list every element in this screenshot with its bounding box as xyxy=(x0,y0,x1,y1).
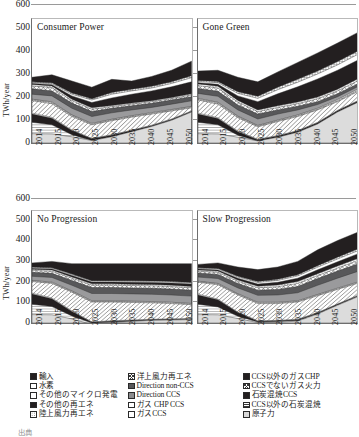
legend-item[interactable]: 洋上風力再エネ xyxy=(128,372,194,381)
x-axis-tick: 2030 xyxy=(110,129,119,145)
x-axis-tick: 2050 xyxy=(350,129,359,145)
legend-swatch-icon xyxy=(30,411,37,418)
y-axis-tick: 300 xyxy=(0,69,30,78)
legend-label: 陸上風力再エネ xyxy=(39,410,94,418)
legend-swatch-icon xyxy=(30,402,37,409)
x-axis-tick: 2015 xyxy=(54,309,63,325)
legend-label: ガス CHP CCS xyxy=(137,401,185,409)
x-axis-tick: 2030 xyxy=(275,129,284,145)
chart-panel-slow-progression[interactable] xyxy=(197,210,359,324)
x-axis-tick: 2015 xyxy=(219,129,228,145)
legend-column: CCS以外のガスCHPCCSでないガス火力石炭混焼CCSCCS以外の石炭混焼原子… xyxy=(243,372,321,419)
x-axis-tick: 2040 xyxy=(313,129,322,145)
chart-block-bottom: TWh/year 6005004003002001000 xyxy=(0,196,359,372)
x-axis-tick: 2020 xyxy=(238,129,247,145)
legend-swatch-icon xyxy=(128,402,135,409)
x-axis-tick: 2030 xyxy=(275,309,284,325)
legend-item[interactable]: 陸上風力再エネ xyxy=(30,410,118,419)
y-axis-tick: 0 xyxy=(0,318,30,327)
chart-panel-consumer-power[interactable] xyxy=(31,18,193,144)
legend-item[interactable]: Direction CCS xyxy=(128,391,194,400)
x-axis-tick: 2014 xyxy=(35,309,44,325)
y-axis-tick: 200 xyxy=(0,277,30,286)
x-axis-tick: 2040 xyxy=(147,129,156,145)
y-axis-tick: 300 xyxy=(0,256,30,265)
legend-item[interactable]: 石炭混焼CCS xyxy=(243,391,321,400)
legend-swatch-icon xyxy=(128,411,135,418)
x-axis-tick: 2020 xyxy=(238,309,247,325)
y-axis-tick: 100 xyxy=(0,115,30,124)
legend-swatch-icon xyxy=(243,411,250,418)
x-axis-tick: 2025 xyxy=(257,309,266,325)
legend-item[interactable]: ガスCCS xyxy=(128,410,194,419)
legend-swatch-icon xyxy=(128,383,135,390)
legend-label: CCSでないガス火力 xyxy=(252,382,321,390)
legend-item[interactable]: 輸入 xyxy=(30,372,118,381)
gridline xyxy=(31,198,356,199)
x-axis-tick: 2014 xyxy=(201,309,210,325)
legend-swatch-icon xyxy=(30,392,37,399)
x-axis-tick: 2035 xyxy=(128,129,137,145)
legend-label: Direction CCS xyxy=(137,391,181,399)
x-axis-tick: 2040 xyxy=(313,309,322,325)
legend-swatch-icon xyxy=(243,383,250,390)
figure-caption: 出典 xyxy=(18,426,32,437)
x-axis-tick: 2035 xyxy=(294,309,303,325)
x-axis-tick: 2025 xyxy=(91,309,100,325)
y-axis-tick: 500 xyxy=(0,23,30,32)
chart-panel-gone-green[interactable] xyxy=(197,18,359,144)
y-axis-tick: 200 xyxy=(0,92,30,101)
y-axis-tick: 100 xyxy=(0,297,30,306)
x-axis-tick: 2035 xyxy=(128,309,137,325)
chart-block-top: TWh/year 6005004003002001000 xyxy=(0,0,359,196)
x-axis-tick: 2025 xyxy=(91,129,100,145)
legend-label: ガスCCS xyxy=(137,410,167,418)
panel-title-no-progression: No Progression xyxy=(37,214,97,224)
y-axis-tick: 600 xyxy=(0,0,30,9)
y-axis-tick: 600 xyxy=(0,194,30,203)
chart-panel-no-progression[interactable] xyxy=(31,210,193,324)
legend-item[interactable]: 原子力 xyxy=(243,410,321,419)
x-axis-tick: 2014 xyxy=(201,129,210,145)
legend-label: Direction non-CCS xyxy=(137,382,194,390)
legend-item[interactable]: CCS以外のガスCHP xyxy=(243,372,321,381)
x-axis-tick: 2030 xyxy=(110,309,119,325)
y-axis-tick: 500 xyxy=(0,215,30,224)
legend-label: その他の再エネ xyxy=(39,401,94,409)
legend-label: その他のマイクロ発電 xyxy=(39,391,118,399)
legend-swatch-icon xyxy=(243,402,250,409)
legend-item[interactable]: Direction non-CCS xyxy=(128,381,194,390)
legend-swatch-icon xyxy=(128,392,135,399)
panel-title-gone-green: Gone Green xyxy=(203,22,250,32)
legend-swatch-icon xyxy=(128,373,135,380)
x-axis-tick: 2045 xyxy=(331,309,340,325)
x-axis-tick: 2050 xyxy=(185,309,194,325)
legend-swatch-icon xyxy=(243,392,250,399)
legend-label: 輸入 xyxy=(39,373,55,381)
x-axis-tick: 2015 xyxy=(219,309,228,325)
x-axis-tick: 2050 xyxy=(185,129,194,145)
legend-label: CCS以外のガスCHP xyxy=(252,373,320,381)
legend-label: CCS以外の石炭混焼 xyxy=(252,401,321,409)
x-axis-tick: 2035 xyxy=(294,129,303,145)
legend-column: 輸入水素その他のマイクロ発電その他の再エネ陸上風力再エネ xyxy=(30,372,118,419)
legend-label: 洋上風力再エネ xyxy=(137,373,192,381)
legend: 輸入水素その他のマイクロ発電その他の再エネ陸上風力再エネ洋上風力再エネDirec… xyxy=(0,372,359,424)
legend-label: 石炭混焼CCS xyxy=(252,391,298,399)
legend-column: 洋上風力再エネDirection non-CCSDirection CCSガス … xyxy=(128,372,194,419)
x-axis-tick: 2050 xyxy=(350,309,359,325)
legend-swatch-icon xyxy=(243,373,250,380)
gridline xyxy=(31,4,356,5)
legend-swatch-icon xyxy=(30,383,37,390)
x-axis-tick: 2020 xyxy=(72,309,81,325)
legend-item[interactable]: その他のマイクロ発電 xyxy=(30,391,118,400)
y-axis-tick: 400 xyxy=(0,46,30,55)
x-axis-tick: 2045 xyxy=(166,309,175,325)
legend-label: 原子力 xyxy=(252,410,276,418)
legend-item[interactable]: CCSでないガス火力 xyxy=(243,381,321,390)
y-axis-tick: 400 xyxy=(0,235,30,244)
legend-swatch-icon xyxy=(30,373,37,380)
x-axis-tick: 2014 xyxy=(35,129,44,145)
legend-label: 水素 xyxy=(39,382,55,390)
